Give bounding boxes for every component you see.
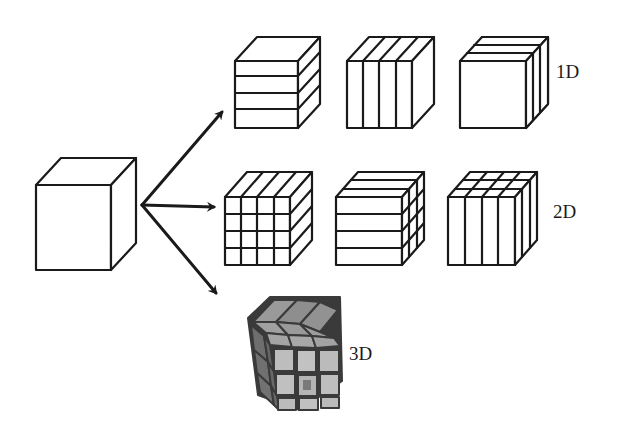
source-cube bbox=[36, 158, 136, 270]
cube-1d-horizontal-slabs bbox=[235, 37, 320, 128]
rubik-center-logo bbox=[303, 380, 311, 390]
label-2d: 2D bbox=[553, 202, 576, 221]
cube-1d-depth-slabs bbox=[460, 37, 548, 128]
diagram-canvas: 1D 2D 3D bbox=[0, 0, 624, 435]
arrow-to-3d bbox=[142, 205, 216, 293]
label-1d: 1D bbox=[556, 62, 579, 81]
cube-1d-vertical-slabs bbox=[347, 37, 434, 128]
cube-2d-yz-rods bbox=[336, 172, 424, 265]
cube-3d-rubiks-blocks bbox=[248, 297, 342, 410]
cube-2d-xy-columns bbox=[225, 172, 312, 265]
arrow-to-2d bbox=[142, 205, 214, 207]
arrows bbox=[142, 112, 222, 293]
rubik-front-face bbox=[274, 349, 339, 410]
cube-2d-xz-rods bbox=[448, 172, 537, 265]
cube-decomposition-diagram bbox=[0, 0, 624, 435]
label-3d: 3D bbox=[349, 344, 372, 363]
arrow-to-1d bbox=[142, 112, 222, 205]
